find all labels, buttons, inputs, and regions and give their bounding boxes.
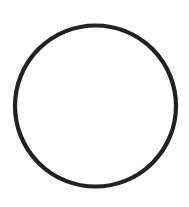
diagram-canvas (0, 0, 189, 207)
circle-diagram (0, 0, 189, 207)
circle-outline (15, 26, 176, 187)
